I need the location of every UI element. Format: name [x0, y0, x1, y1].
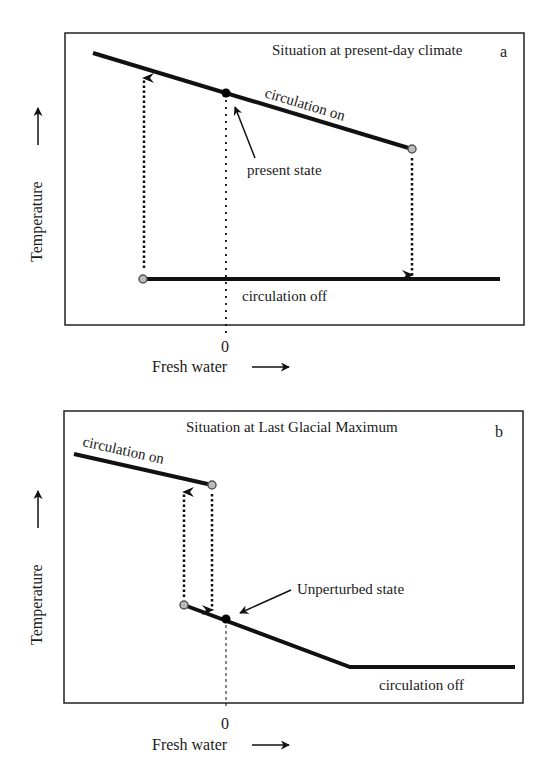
panel-b-unperturbed-state-pointer [240, 590, 291, 613]
panel-a-x-axis-label: Fresh water [152, 358, 228, 375]
panel-a-off-branch-end-dot [139, 275, 147, 283]
panel-a-present-state-label: present state [247, 162, 322, 178]
panel-a-present-state-pointer [235, 107, 255, 158]
panel-b-circulation-off-line [184, 605, 515, 667]
panel-b-circulation-on-label: circulation on [81, 433, 166, 467]
panel-a-circulation-off-label: circulation off [242, 288, 327, 304]
panel-b-on-branch-end-dot [208, 481, 216, 489]
panel-a-letter: a [500, 43, 507, 60]
panel-b-letter: b [495, 423, 503, 440]
panel-a-circulation-on-line [93, 53, 412, 149]
panel-b-unperturbed-state-label: Unperturbed state [297, 581, 404, 597]
panel-b: Situation at Last Glacial Maximum b circ… [28, 411, 523, 753]
panel-a-on-branch-end-dot [408, 145, 416, 153]
panel-b-off-branch-end-dot [180, 601, 188, 609]
panel-a-y-axis-label: Temperature [28, 181, 46, 262]
panel-b-circulation-off-label: circulation off [379, 677, 464, 693]
hysteresis-diagram: Situation at present-day climate a circu… [0, 0, 554, 778]
panel-b-x-tick-zero: 0 [221, 715, 229, 732]
panel-a-frame [65, 33, 524, 325]
panel-a: Situation at present-day climate a circu… [28, 33, 524, 375]
panel-b-title: Situation at Last Glacial Maximum [186, 419, 398, 435]
panel-a-present-state-dot [222, 89, 231, 98]
panel-a-x-tick-zero: 0 [221, 338, 229, 355]
panel-b-y-axis-label: Temperature [28, 564, 46, 645]
panel-b-unperturbed-state-dot [222, 615, 231, 624]
panel-a-title: Situation at present-day climate [272, 42, 463, 58]
panel-b-x-axis-label: Fresh water [152, 736, 228, 753]
